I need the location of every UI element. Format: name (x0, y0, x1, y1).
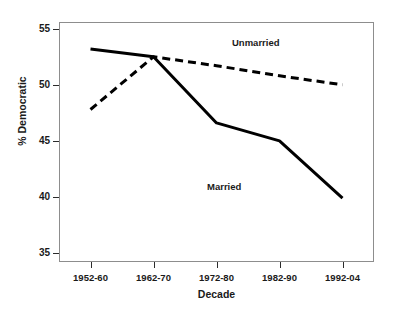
x-axis-tick-label: 1992-04 (303, 272, 383, 283)
y-axis-title: % Democratic (16, 41, 28, 181)
y-axis-tick-mark (53, 253, 59, 254)
chart-plot-lines (59, 22, 374, 262)
y-axis-tick-mark (53, 141, 59, 142)
x-axis-tick-mark (154, 262, 155, 268)
y-axis-tick-label: 55 (26, 24, 50, 34)
y-axis-tick-label: 45 (26, 136, 50, 146)
y-axis-tick-label: 50 (26, 80, 50, 90)
x-axis-tick-mark (280, 262, 281, 268)
y-axis-tick-mark (53, 29, 59, 30)
x-axis-tick-mark (217, 262, 218, 268)
x-axis-tick-mark (343, 262, 344, 268)
chart-figure: 3540455055 % Democratic 1952-601962-7019… (0, 0, 396, 309)
series-line-married (91, 49, 343, 198)
x-axis-title: Decade (59, 288, 374, 300)
series-label-unmarried: Unmarried (232, 37, 280, 48)
x-axis-tick-mark (91, 262, 92, 268)
y-axis-tick-mark (53, 197, 59, 198)
y-axis-tick-mark (53, 85, 59, 86)
series-line-unmarried (91, 57, 343, 110)
y-axis-tick-label: 35 (26, 248, 50, 258)
y-axis-tick-label: 40 (26, 192, 50, 202)
series-label-married: Married (207, 181, 241, 192)
